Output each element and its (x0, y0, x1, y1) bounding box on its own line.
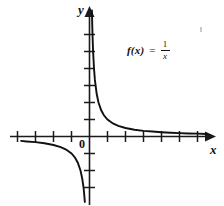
equation-equals-sign: = (149, 45, 155, 56)
function-graph-figure: y x 0 f(x) = 1 x (0, 0, 224, 206)
curve-branch-quadrant-3 (21, 141, 85, 202)
scan-artifact-speck (200, 27, 202, 32)
x-axis-arrow-icon (205, 132, 216, 142)
curve-branch-quadrant-1 (92, 11, 207, 134)
equation-left-side: f(x) (127, 45, 144, 56)
origin-label: 0 (79, 138, 85, 150)
y-axis-arrow-icon (85, 6, 95, 17)
x-axis-label: x (210, 143, 217, 156)
equation-fraction: 1 x (161, 40, 170, 61)
y-axis-label: y (78, 3, 84, 16)
graph-canvas (0, 0, 224, 206)
function-equation-annotation: f(x) = 1 x (127, 40, 170, 61)
fraction-denominator: x (161, 51, 169, 61)
fraction-numerator: 1 (161, 40, 170, 50)
